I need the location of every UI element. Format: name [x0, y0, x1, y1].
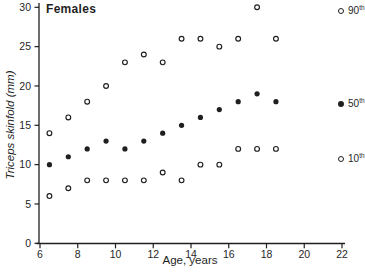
x-tick-label: 20: [298, 248, 310, 260]
y-tick-label: 5: [25, 198, 31, 210]
point-50th-age-17.5: [254, 91, 259, 96]
y-tick-label: 30: [19, 1, 31, 13]
point-90th-age-12.5: [160, 60, 165, 65]
point-10th-age-6.5: [47, 194, 52, 199]
chart-figure: 6810121416182022051015202530 Females Tri…: [0, 0, 365, 276]
point-50th-age-10.5: [122, 146, 127, 151]
point-10th-age-18.5: [274, 146, 279, 151]
point-10th-age-8.5: [85, 178, 90, 183]
legend-item-90th: 90th: [338, 5, 365, 17]
point-90th-age-10.5: [123, 60, 128, 65]
point-90th-age-15.5: [217, 44, 222, 49]
chart-title: Females: [46, 2, 96, 16]
point-50th-age-18.5: [273, 99, 278, 104]
y-tick-label: 0: [25, 237, 31, 249]
plot-area: 6810121416182022051015202530: [0, 0, 365, 276]
percentile-50-marker-icon: [338, 101, 344, 107]
point-50th-age-16.5: [236, 99, 241, 104]
point-10th-age-9.5: [104, 178, 109, 183]
point-10th-age-10.5: [123, 178, 128, 183]
point-50th-age-6.5: [47, 162, 52, 167]
legend-item-50th: 50th: [338, 98, 365, 110]
percentile-90-marker-icon: [338, 8, 344, 14]
point-50th-age-13.5: [179, 123, 184, 128]
x-tick-label: 10: [110, 248, 122, 260]
x-axis-label: Age, years: [130, 254, 250, 266]
x-tick-label: 18: [261, 248, 273, 260]
point-10th-age-17.5: [255, 146, 260, 151]
point-10th-age-12.5: [160, 170, 165, 175]
y-tick-label: 10: [19, 158, 31, 170]
x-tick-label: 6: [37, 248, 43, 260]
x-tick-label: 22: [336, 248, 348, 260]
y-tick-label: 15: [19, 119, 31, 131]
point-50th-age-7.5: [66, 154, 71, 159]
point-90th-age-8.5: [85, 99, 90, 104]
legend-label-50th: 50th: [348, 98, 365, 109]
point-10th-age-7.5: [66, 186, 71, 191]
point-10th-age-13.5: [179, 178, 184, 183]
point-50th-age-12.5: [160, 131, 165, 136]
point-50th-age-15.5: [217, 107, 222, 112]
legend-label-10th: 10th: [348, 153, 365, 164]
point-90th-age-7.5: [66, 115, 71, 120]
y-axis-label: Triceps skinfold (mm): [4, 70, 16, 179]
percentile-10-marker-icon: [338, 156, 344, 162]
point-90th-age-13.5: [179, 36, 184, 41]
point-10th-age-14.5: [198, 162, 203, 167]
y-tick-label: 20: [19, 80, 31, 92]
point-90th-age-18.5: [274, 36, 279, 41]
point-50th-age-11.5: [141, 138, 146, 143]
point-50th-age-8.5: [85, 146, 90, 151]
point-90th-age-6.5: [47, 131, 52, 136]
point-90th-age-11.5: [141, 52, 146, 57]
point-50th-age-9.5: [103, 138, 108, 143]
x-tick-label: 8: [75, 248, 81, 260]
point-90th-age-16.5: [236, 36, 241, 41]
point-10th-age-16.5: [236, 146, 241, 151]
legend-label-90th: 90th: [348, 5, 365, 16]
legend-item-10th: 10th: [338, 153, 365, 165]
point-10th-age-15.5: [217, 162, 222, 167]
point-90th-age-9.5: [104, 84, 109, 89]
point-50th-age-14.5: [198, 115, 203, 120]
point-90th-age-14.5: [198, 36, 203, 41]
point-90th-age-17.5: [255, 5, 260, 10]
y-tick-label: 25: [19, 40, 31, 52]
point-10th-age-11.5: [141, 178, 146, 183]
